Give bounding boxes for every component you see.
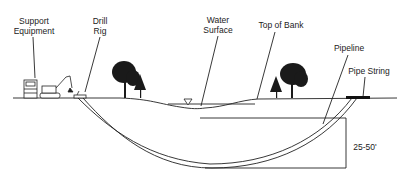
svg-text:Equipment: Equipment xyxy=(14,26,55,36)
label-pipeline: Pipeline xyxy=(334,43,365,53)
svg-text:Surface: Surface xyxy=(203,25,233,35)
label-pipe-string: Pipe String xyxy=(348,66,390,76)
drill-rig-icon xyxy=(74,91,86,98)
label-water-surface: Water Surface xyxy=(203,15,233,35)
excavator-icon xyxy=(40,76,73,98)
svg-text:Rig: Rig xyxy=(94,26,107,36)
leader-lines xyxy=(33,32,365,124)
svg-text:Support: Support xyxy=(19,16,49,26)
label-support-equipment: Support Equipment xyxy=(14,16,55,36)
pipeline-bore xyxy=(78,98,357,168)
ground-profile xyxy=(13,98,397,168)
svg-text:Water: Water xyxy=(207,15,230,25)
truck-icon xyxy=(24,80,37,98)
svg-text:Drill: Drill xyxy=(93,16,108,26)
label-depth: 25-50' xyxy=(353,142,377,152)
tree-icon xyxy=(270,63,308,98)
hdd-diagram: Support Equipment Drill Rig Water Surfac… xyxy=(0,0,406,179)
tree-icon xyxy=(112,61,146,98)
pipe-string-icon xyxy=(346,96,370,99)
label-drill-rig: Drill Rig xyxy=(93,16,108,36)
label-top-of-bank: Top of Bank xyxy=(259,20,305,30)
